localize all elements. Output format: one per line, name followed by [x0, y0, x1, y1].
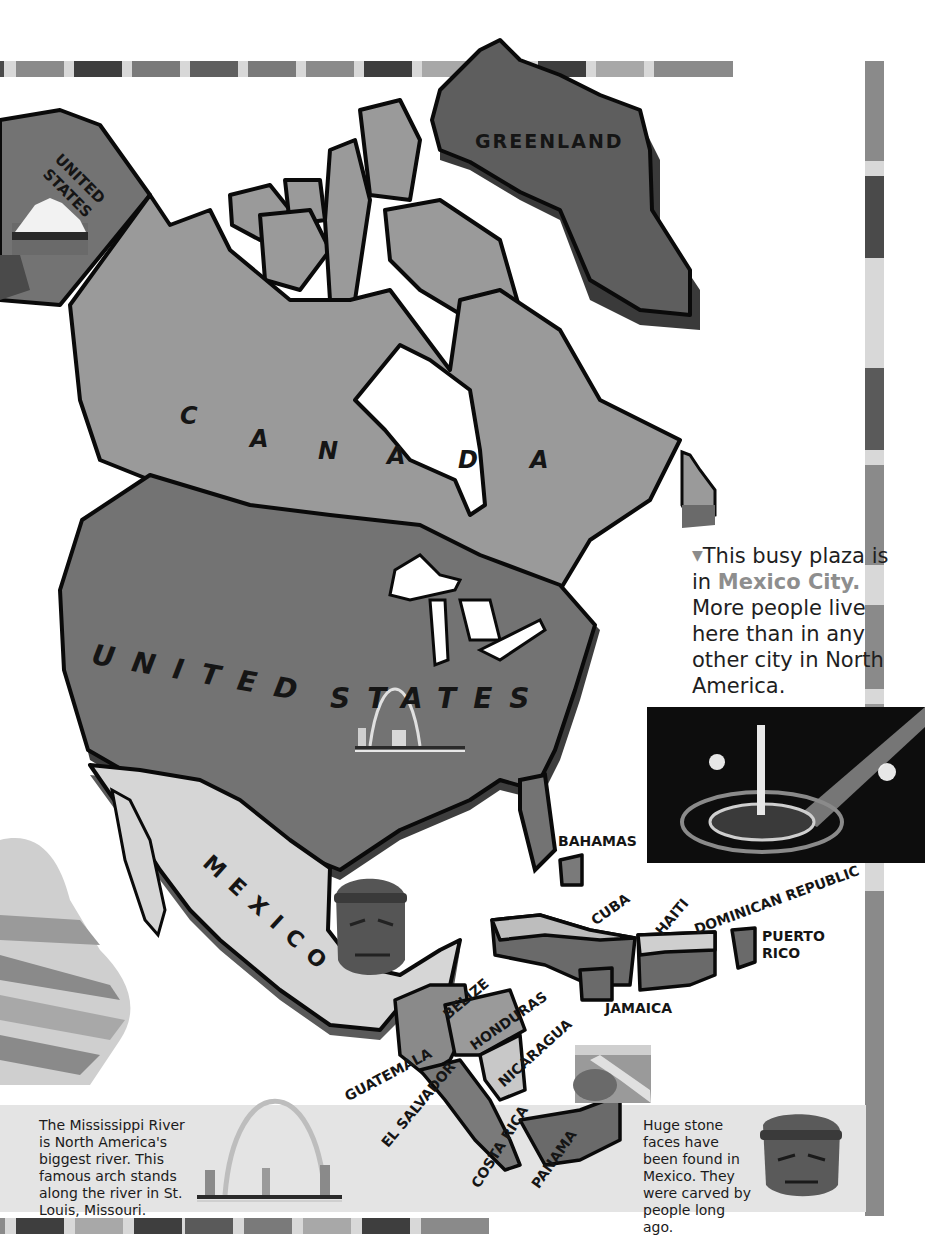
triangle-down-icon: ▼ [692, 547, 703, 563]
mexico-city-highlight: Mexico City. [718, 570, 860, 594]
label-canada-d: D [458, 446, 478, 474]
label-puerto-rico-1: PUERTO [762, 928, 825, 944]
gateway-arch-large-icon [197, 1101, 342, 1202]
label-greenland: GREENLAND [475, 130, 624, 152]
olmec-head-icon [334, 879, 407, 975]
label-puerto-rico-2: RICO [762, 945, 800, 961]
label-bahamas: BAHAMAS [558, 833, 637, 849]
label-jamaica: JAMAICA [605, 1000, 672, 1016]
mexico-city-caption: ▼This busy plaza is in Mexico City. More… [692, 542, 892, 699]
terraced-hills-illustration [0, 838, 130, 1085]
label-canada-c: C [180, 402, 198, 430]
label-canada-n: N [318, 437, 338, 465]
label-canada-a2: A [387, 442, 406, 470]
label-usa-states: STATES [330, 682, 546, 715]
mississippi-note: The Mississippi River is North America's… [39, 1117, 199, 1219]
label-canada-a1: A [250, 425, 269, 453]
stone-faces-note: Huge stone faces have been found in Mexi… [643, 1117, 758, 1236]
olmec-head-large-icon [760, 1114, 842, 1196]
label-canada-a3: A [530, 446, 549, 474]
river-landscape-icon [573, 1045, 651, 1103]
mexico-city-plaza-photo [647, 707, 925, 863]
